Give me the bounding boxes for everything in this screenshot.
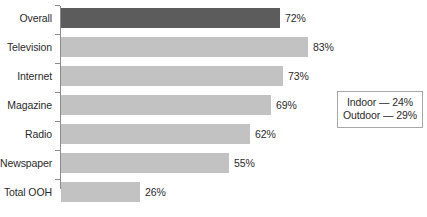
bar-internet bbox=[61, 66, 283, 86]
bar-value-label: 26% bbox=[145, 182, 166, 202]
axis-tick bbox=[55, 34, 60, 35]
chart-row: Overall 72% bbox=[0, 5, 427, 34]
annotation-line-outdoor: Outdoor — 29% bbox=[338, 109, 422, 122]
chart-row: Total OOH 26% bbox=[0, 179, 427, 208]
category-label: Total OOH bbox=[0, 182, 52, 202]
bar-overall bbox=[61, 8, 280, 28]
category-label: Newspaper bbox=[0, 153, 52, 173]
category-label: Television bbox=[0, 37, 52, 57]
category-label: Overall bbox=[0, 8, 52, 28]
annotation-box: Indoor — 24% Outdoor — 29% bbox=[337, 91, 423, 128]
bar-magazine bbox=[61, 95, 271, 115]
bar-value-label: 55% bbox=[234, 153, 255, 173]
bar-value-label: 62% bbox=[255, 124, 276, 144]
category-label: Magazine bbox=[0, 95, 52, 115]
axis-tick bbox=[55, 150, 60, 151]
chart-row: Internet 73% bbox=[0, 63, 427, 92]
axis-tick bbox=[55, 179, 60, 180]
axis-tick bbox=[55, 92, 60, 93]
bar-value-label: 72% bbox=[285, 8, 306, 28]
axis-tick bbox=[55, 121, 60, 122]
chart-row: Television 83% bbox=[0, 34, 427, 63]
bar-newspaper bbox=[61, 153, 229, 173]
bar-chart: Overall 72% Television 83% Internet 73% … bbox=[0, 0, 427, 217]
bar-television bbox=[61, 37, 308, 57]
axis-tick bbox=[55, 5, 60, 6]
annotation-line-indoor: Indoor — 24% bbox=[338, 96, 422, 109]
axis-tick bbox=[55, 63, 60, 64]
bar-value-label: 83% bbox=[313, 37, 334, 57]
bar-value-label: 69% bbox=[276, 95, 297, 115]
bar-radio bbox=[61, 124, 250, 144]
category-label: Internet bbox=[0, 66, 52, 86]
category-label: Radio bbox=[0, 124, 52, 144]
bar-total-ooh bbox=[61, 182, 140, 202]
bar-value-label: 73% bbox=[288, 66, 309, 86]
chart-row: Newspaper 55% bbox=[0, 150, 427, 179]
